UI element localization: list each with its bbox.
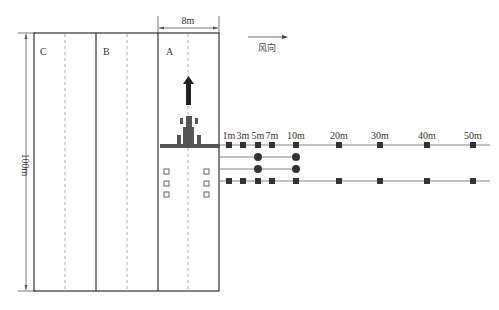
field-length-dimension: 100m — [18, 33, 36, 291]
dist-5m: 5m — [252, 130, 265, 141]
lane-label-b: B — [103, 46, 110, 57]
lane-width-label: 8m — [182, 15, 195, 26]
sampling-row-bottom — [219, 178, 490, 184]
dist-7m: 7m — [266, 130, 279, 141]
sampling-row-top — [219, 142, 490, 148]
dist-3m: 3m — [237, 130, 250, 141]
field-length-label: 100m — [20, 154, 31, 177]
in-lane-samplers — [164, 169, 209, 197]
dist-10m: 10m — [287, 130, 305, 141]
field-lanes: C B A — [34, 33, 219, 291]
dist-30m: 30m — [371, 130, 389, 141]
spray-drift-diagram: 8m 风向 100m C B A — [0, 0, 499, 310]
lane-label-a: A — [166, 46, 174, 57]
dist-50m: 50m — [464, 130, 482, 141]
spray-boom — [160, 144, 220, 148]
wind-direction-label: 风向 — [258, 42, 276, 53]
dist-1m: 1m — [223, 130, 236, 141]
wind-direction: 风向 — [248, 35, 288, 53]
figure-caption — [70, 300, 390, 310]
lane-width-dimension: 8m — [158, 15, 219, 34]
dist-20m: 20m — [330, 130, 348, 141]
sampling-row-circle-2 — [219, 165, 300, 173]
sampling-row-circle-1 — [219, 153, 300, 161]
lane-label-c: C — [40, 46, 47, 57]
sprayer-icon — [160, 76, 220, 148]
distance-labels: 1m 3m 5m 7m 10m 20m 30m 40m 50m — [223, 130, 483, 141]
dist-40m: 40m — [418, 130, 436, 141]
